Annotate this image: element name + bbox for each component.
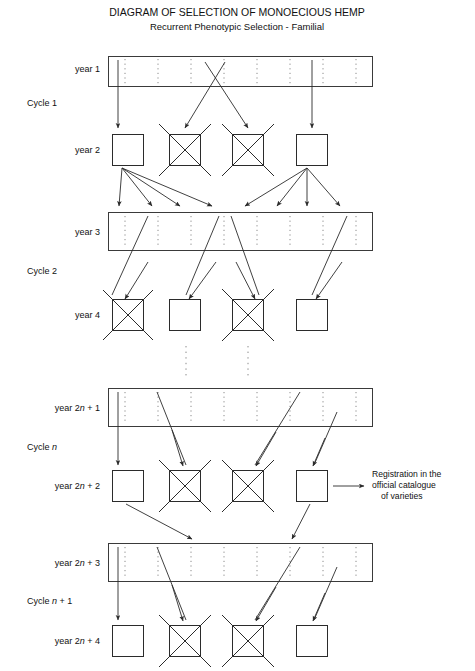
family-box-year2n2-2 <box>159 460 211 512</box>
family-box-year2n4-3 <box>222 615 274 667</box>
year-label-year-1: year 1 <box>75 64 100 74</box>
family-box-year4-1 <box>103 290 153 340</box>
vertical-ellipsis <box>186 346 248 378</box>
year-label-year-2n-4: year 2n + 4 <box>55 636 100 646</box>
registration-line-1: Registration in the <box>372 469 441 479</box>
year-label-year-3: year 3 <box>75 227 100 237</box>
family-box-year2n2-1 <box>113 471 144 502</box>
year-label-year-4: year 4 <box>75 310 100 320</box>
cycle-label-cycle-n-1: Cycle n + 1 <box>27 596 72 606</box>
registration-line-3: of varieties <box>381 491 423 501</box>
year-label-year-2: year 2 <box>75 145 100 155</box>
connectors-year2n2-to-year2n3 <box>126 504 310 539</box>
family-row-year-2 <box>113 124 328 176</box>
family-box-year4-3 <box>222 289 274 341</box>
family-row-year-2n-4 <box>113 615 328 667</box>
diagram-title: DIAGRAM OF SELECTION OF MONOECIOUS HEMP <box>109 6 365 18</box>
connectors-year2-to-year3 <box>119 168 340 206</box>
family-box-year2-2 <box>159 124 211 176</box>
diagram-canvas: DIAGRAM OF SELECTION OF MONOECIOUS HEMP … <box>0 0 475 671</box>
cycle-label-cycle-2: Cycle 2 <box>27 266 57 276</box>
year-label-year-2n-2: year 2n + 2 <box>55 481 100 491</box>
family-box-year2n2-3 <box>222 460 274 512</box>
year-label-year-2n-3: year 2n + 3 <box>55 558 100 568</box>
family-box-year4-2 <box>170 300 201 331</box>
registration-line-2: official catalogue <box>372 480 436 490</box>
population-band-year-3 <box>109 213 373 251</box>
family-box-year2-3 <box>222 124 274 176</box>
family-box-year2n4-1 <box>113 626 144 657</box>
family-row-year-2n-2 <box>113 460 328 512</box>
family-box-year2n4-2 <box>159 615 211 667</box>
family-row-year-4 <box>103 289 328 341</box>
family-box-year2n4-4 <box>297 626 328 657</box>
diagram-subtitle: Recurrent Phenotypic Selection - Familia… <box>150 21 324 32</box>
cycle-label-cycle-1: Cycle 1 <box>27 98 57 108</box>
family-box-year2-4 <box>297 135 328 166</box>
year-label-year-2n-1: year 2n + 1 <box>55 403 100 413</box>
cycle-label-cycle-n: Cycle n <box>27 442 57 452</box>
family-box-year2-1 <box>113 135 144 166</box>
family-box-year4-4 <box>297 300 328 331</box>
family-box-year2n2-4 <box>297 471 328 502</box>
selection-diagram: DIAGRAM OF SELECTION OF MONOECIOUS HEMP … <box>0 0 475 671</box>
population-band-year-1 <box>109 57 373 87</box>
